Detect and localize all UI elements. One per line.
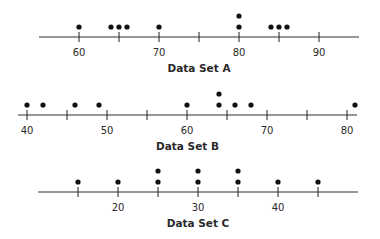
data-dot [195,179,200,184]
tick-label: 70 [261,125,274,136]
tick-label: 70 [153,47,166,58]
data-dot [72,102,77,107]
tick-label: 30 [192,202,205,213]
dot-plots-canvas: 60708090Data Set A 4050607080Data Set B … [0,0,380,239]
tick-label: 60 [73,47,86,58]
data-dot [155,179,160,184]
data-dot [108,24,113,29]
data-dot [124,24,129,29]
data-dot [236,24,241,29]
tick-label: 40 [21,125,34,136]
data-dot [235,179,240,184]
data-dot [155,168,160,173]
data-dot [184,102,189,107]
axis-title-b: Data Set B [156,140,219,152]
tick-label: 90 [313,47,326,58]
data-dot [315,179,320,184]
data-dot [195,168,200,173]
dot-plot-a: 60708090Data Set A [39,13,359,74]
data-dot [284,24,289,29]
dot-plots-figure: 60708090Data Set A 4050607080Data Set B … [0,0,380,239]
data-dot [75,179,80,184]
tick-label: 60 [181,125,194,136]
data-dot [275,179,280,184]
data-dot [248,102,253,107]
data-dot [236,13,241,18]
data-dot [76,24,81,29]
tick-label: 80 [341,125,354,136]
tick-label: 20 [112,202,125,213]
tick-label: 50 [101,125,114,136]
data-dot [216,102,221,107]
axis-title-a: Data Set A [167,62,231,74]
data-dot [96,102,101,107]
data-dot [116,24,121,29]
data-dot [268,24,273,29]
data-dot [235,168,240,173]
dot-plot-c: 203040Data Set C [38,168,358,229]
data-dot [115,179,120,184]
axis-title-c: Data Set C [167,217,230,229]
data-dot [232,102,237,107]
data-dot [352,102,357,107]
tick-label: 40 [272,202,285,213]
data-dot [24,102,29,107]
data-dot [276,24,281,29]
data-dot [216,91,221,96]
dot-plot-b: 4050607080Data Set B [18,91,358,152]
data-dot [156,24,161,29]
tick-label: 80 [233,47,246,58]
data-dot [40,102,45,107]
